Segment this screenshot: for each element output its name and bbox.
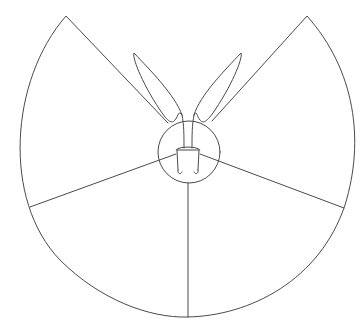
right-leaf	[194, 53, 241, 122]
left-divider	[30, 154, 176, 207]
left-leaf	[134, 53, 182, 122]
diagram-canvas	[0, 0, 361, 326]
outer-fan-outline	[20, 16, 355, 317]
fan-diagram	[0, 0, 361, 326]
right-divider	[200, 154, 344, 208]
stem	[182, 115, 194, 148]
pot	[177, 150, 199, 174]
hub-circle	[158, 121, 220, 183]
